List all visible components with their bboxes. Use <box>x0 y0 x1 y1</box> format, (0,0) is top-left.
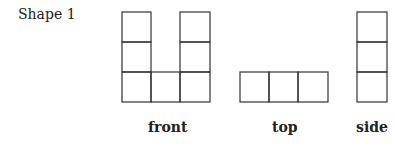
side-view <box>357 12 387 102</box>
top-label: top <box>272 119 298 135</box>
front-view <box>122 12 210 102</box>
views-diagram <box>0 0 395 151</box>
front-label: front <box>148 119 187 135</box>
side-label: side <box>356 119 388 135</box>
top-view <box>240 72 328 102</box>
